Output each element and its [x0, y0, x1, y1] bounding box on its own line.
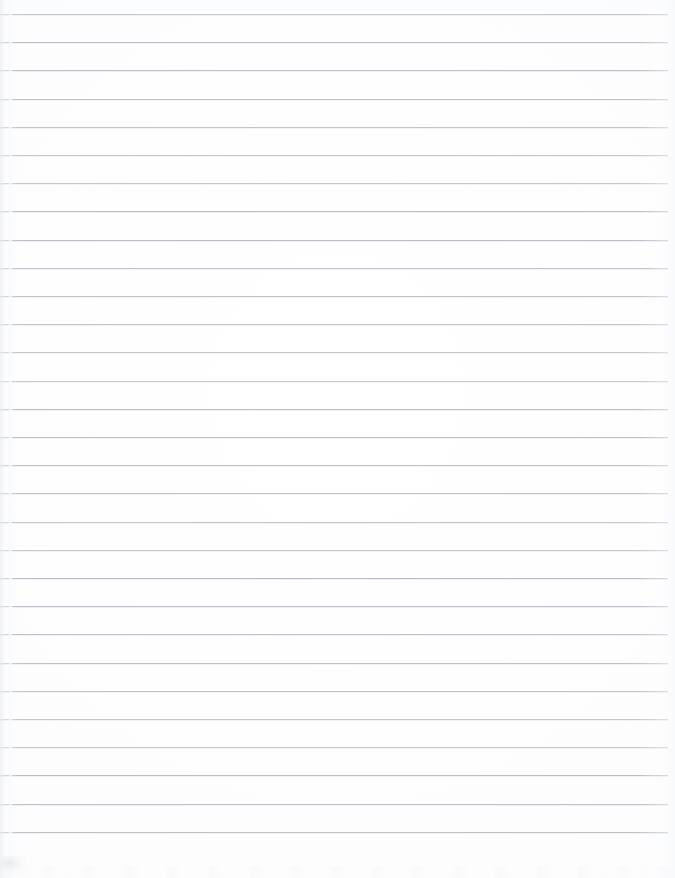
notebook-page — [0, 0, 675, 878]
writing-area[interactable] — [0, 0, 675, 878]
